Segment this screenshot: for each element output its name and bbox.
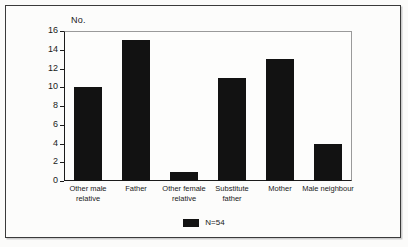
bar [74,87,102,181]
bar [314,144,342,182]
y-axis-tick-label: 8 [53,100,58,110]
y-axis-tick-label: 2 [53,156,58,166]
y-axis-tick-label: 6 [53,119,58,129]
legend: N=54 [0,218,408,227]
y-axis-tick-label: 14 [48,44,58,54]
legend-item: N=54 [183,218,224,227]
bars-group [64,31,352,181]
legend-label: N=54 [205,218,224,227]
bar [170,172,198,181]
y-axis-tick-label: 0 [53,175,58,185]
bar [218,78,246,181]
y-axis-tick-label: 16 [48,25,58,35]
x-axis-labels: Other male relativeFatherOther female re… [64,184,352,212]
y-axis: 0246810121416 [0,31,64,181]
y-axis-tick-label: 10 [48,81,58,91]
y-axis-title: No. [71,15,86,25]
y-axis-tick-label: 12 [48,63,58,73]
figure-container: No. 0246810121416 Other male relativeFat… [0,0,408,247]
bar [122,40,150,181]
legend-swatch [183,219,199,227]
y-axis-tick-label: 4 [53,138,58,148]
bar [266,59,294,181]
x-axis-tick-label: Male neighbour [300,184,356,194]
y-axis-tick-mark [60,181,64,182]
